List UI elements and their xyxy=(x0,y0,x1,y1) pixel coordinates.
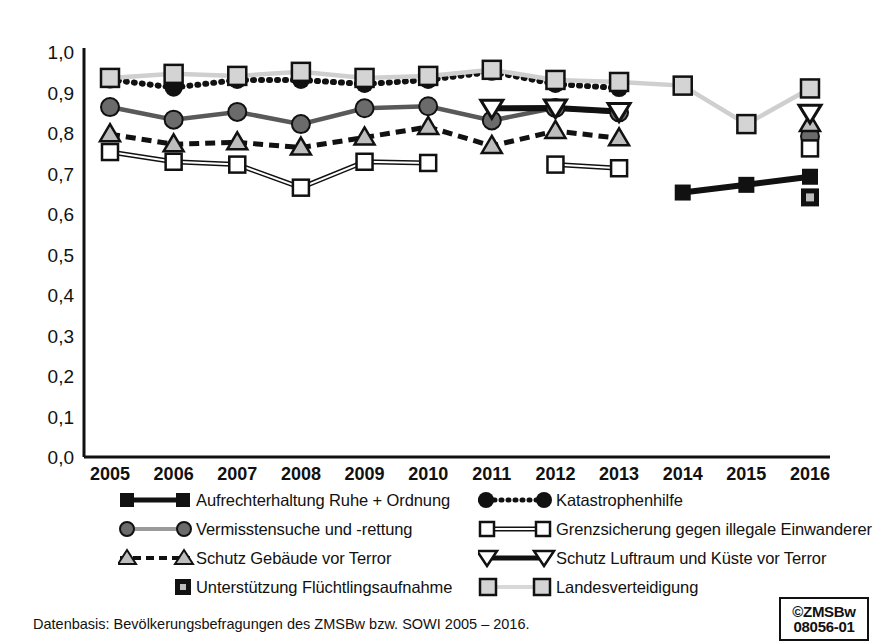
data-point-marker xyxy=(101,98,119,116)
series-lines xyxy=(110,70,810,193)
data-point-marker xyxy=(102,144,118,160)
y-tick-label: 0,7 xyxy=(48,164,74,185)
data-point-marker xyxy=(547,157,563,173)
legend-item-label: Grenzsicherung gegen illegale Einwandere… xyxy=(556,520,872,539)
y-tick-label: 0,5 xyxy=(48,245,74,266)
data-point-marker xyxy=(546,71,564,89)
data-point-marker xyxy=(545,121,565,138)
legend-item-label: Katastrophenhilfe xyxy=(556,491,683,510)
legend-marker-icon xyxy=(118,517,196,541)
data-point-marker xyxy=(483,61,501,79)
data-point-marker xyxy=(802,140,818,156)
stamp-line-2: 08056-01 xyxy=(794,619,855,634)
x-tick-label: 2011 xyxy=(472,464,511,484)
x-axis-tick-labels: 2005200620072008200920102011201220132014… xyxy=(90,464,830,484)
legend-marker-icon xyxy=(478,546,556,570)
data-point-marker xyxy=(482,136,502,153)
data-point-marker xyxy=(420,155,436,171)
y-tick-label: 0,9 xyxy=(48,83,74,104)
data-point-marker xyxy=(609,128,629,145)
data-point-marker xyxy=(356,99,374,117)
x-tick-label: 2013 xyxy=(599,464,639,484)
legend-column-right: KatastrophenhilfeGrenzsicherung gegen il… xyxy=(478,487,878,603)
data-point-marker xyxy=(228,103,246,121)
data-point-marker xyxy=(737,115,755,133)
data-point-marker xyxy=(292,115,310,133)
data-point-marker xyxy=(675,185,691,201)
stamp-line-1: ©ZMSBw xyxy=(792,604,855,619)
legend-item: Aufrechterhaltung Ruhe + Ordnung xyxy=(118,487,478,513)
data-point-marker xyxy=(229,157,245,173)
data-point-marker xyxy=(165,65,183,83)
x-tick-label: 2006 xyxy=(154,464,194,484)
y-tick-label: 0,4 xyxy=(48,285,75,306)
data-point-marker xyxy=(100,124,120,141)
legend-item-label: Unterstützung Flüchtlingsaufnahme xyxy=(196,578,452,597)
legend-item: Vermisstensuche und -rettung xyxy=(118,516,478,542)
legend-item: Schutz Luftraum und Küste vor Terror xyxy=(478,545,878,571)
legend-item-label: Vermisstensuche und -rettung xyxy=(196,520,412,539)
legend-marker-icon xyxy=(118,575,196,599)
y-tick-label: 1,0 xyxy=(48,42,74,63)
data-point-marker xyxy=(738,177,754,193)
y-tick-label: 0,2 xyxy=(48,366,74,387)
x-tick-label: 2009 xyxy=(345,464,385,484)
x-tick-label: 2015 xyxy=(726,464,766,484)
x-tick-label: 2014 xyxy=(663,464,703,484)
data-point-marker xyxy=(228,67,246,85)
legend-item: Schutz Gebäude vor Terror xyxy=(118,545,478,571)
y-tick-label: 0,6 xyxy=(48,204,74,225)
data-point-marker xyxy=(799,105,821,123)
data-point-marker xyxy=(166,154,182,170)
chart-plot-area: 1,00,90,80,70,60,50,40,30,20,10,0 200520… xyxy=(0,0,885,485)
data-point-marker xyxy=(419,97,437,115)
legend-item-label: Schutz Gebäude vor Terror xyxy=(196,549,391,568)
data-point-marker xyxy=(357,154,373,170)
legend-marker-icon xyxy=(118,546,196,570)
legend-item-label: Landesverteidigung xyxy=(556,578,698,597)
x-tick-label: 2008 xyxy=(281,464,321,484)
legend-marker-icon xyxy=(478,488,556,512)
data-point-marker xyxy=(418,117,438,134)
legend-column-left: Aufrechterhaltung Ruhe + OrdnungVermisst… xyxy=(118,487,478,603)
data-point-marker xyxy=(801,188,819,206)
data-point-marker xyxy=(610,73,628,91)
y-tick-label: 0,0 xyxy=(48,447,74,468)
y-tick-label: 0,1 xyxy=(48,407,74,428)
legend-item-label: Aufrechterhaltung Ruhe + Ordnung xyxy=(196,491,450,510)
legend-item: Grenzsicherung gegen illegale Einwandere… xyxy=(478,516,878,542)
data-point-marker xyxy=(611,160,627,176)
data-point-marker xyxy=(356,69,374,87)
chart-page: 1,00,90,80,70,60,50,40,30,20,10,0 200520… xyxy=(0,0,885,643)
legend-item: Unterstützung Flüchtlingsaufnahme xyxy=(118,574,478,600)
data-point-marker xyxy=(165,111,183,129)
data-point-marker xyxy=(801,79,819,97)
x-tick-label: 2016 xyxy=(790,464,830,484)
legend-item: Katastrophenhilfe xyxy=(478,487,878,513)
data-point-marker xyxy=(293,180,309,196)
x-tick-label: 2005 xyxy=(90,464,130,484)
data-point-marker xyxy=(101,69,119,87)
x-tick-label: 2007 xyxy=(217,464,257,484)
x-tick-label: 2012 xyxy=(535,464,575,484)
chart-legend: Aufrechterhaltung Ruhe + OrdnungVermisst… xyxy=(0,487,885,592)
data-point-marker xyxy=(674,77,692,95)
legend-marker-icon xyxy=(118,488,196,512)
y-tick-label: 0,8 xyxy=(48,123,74,144)
x-tick-label: 2010 xyxy=(408,464,448,484)
data-point-marker xyxy=(802,169,818,185)
series-line xyxy=(110,152,428,188)
footer-source-note: Datenbasis: Bevölkerungsbefragungen des … xyxy=(33,616,530,632)
chart-svg: 1,00,90,80,70,60,50,40,30,20,10,0 200520… xyxy=(0,0,885,485)
y-axis-tick-labels: 1,00,90,80,70,60,50,40,30,20,10,0 xyxy=(48,42,75,468)
data-point-marker xyxy=(419,67,437,85)
data-point-marker xyxy=(292,63,310,81)
legend-marker-icon xyxy=(478,517,556,541)
y-tick-label: 0,3 xyxy=(48,326,74,347)
legend-marker-icon xyxy=(478,575,556,599)
copyright-stamp: ©ZMSBw 08056-01 xyxy=(779,597,869,641)
legend-item-label: Schutz Luftraum und Küste vor Terror xyxy=(556,549,826,568)
